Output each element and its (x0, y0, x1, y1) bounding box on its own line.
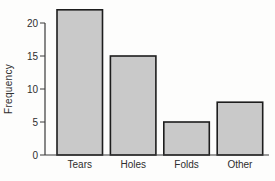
bar-folds (164, 122, 210, 155)
y-tick-label: 5 (32, 117, 38, 128)
category-label-other: Other (227, 159, 253, 170)
category-label-holes: Holes (120, 159, 146, 170)
y-tick-label: 20 (27, 18, 39, 29)
category-label-folds: Folds (174, 159, 198, 170)
y-tick-label: 15 (27, 51, 39, 62)
category-label-tears: Tears (68, 159, 92, 170)
bar-holes (110, 56, 155, 155)
bar-tears (57, 10, 103, 155)
y-axis-title: Frequency (3, 64, 14, 114)
bars-group (57, 10, 263, 155)
bar-other (217, 102, 263, 155)
bar-chart-figure: 05101520TearsHolesFoldsOtherFrequency (0, 0, 275, 181)
bar-chart: 05101520TearsHolesFoldsOtherFrequency (0, 0, 275, 181)
y-tick-label: 10 (27, 84, 39, 95)
y-tick-label: 0 (32, 150, 38, 161)
